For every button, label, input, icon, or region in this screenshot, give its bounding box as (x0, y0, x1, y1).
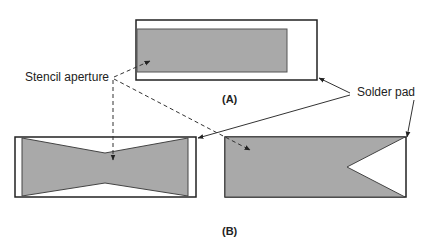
panel-a-label: (A) (222, 93, 237, 105)
panel-b-label: (B) (222, 225, 237, 237)
solder-pad-label: Solder pad (357, 85, 415, 99)
figure-a (136, 20, 317, 80)
stencil-diagram (0, 0, 434, 246)
figure-b-right (225, 137, 406, 197)
aperture-a (137, 29, 287, 72)
stencil-aperture-label: Stencil aperture (25, 70, 109, 84)
figure-b-left (15, 137, 196, 197)
